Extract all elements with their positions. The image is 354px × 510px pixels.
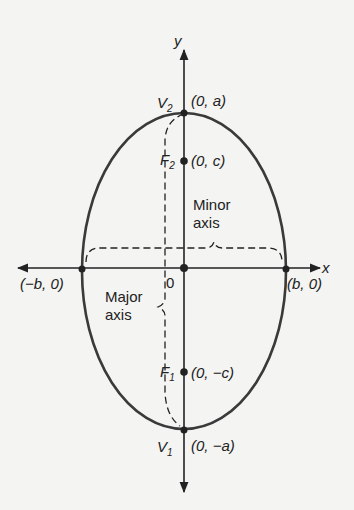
minor-axis-label-2: axis xyxy=(193,214,220,231)
focus-f1-dot xyxy=(180,368,188,376)
v2-coord: (0, a) xyxy=(191,92,226,109)
left-vertex-dot xyxy=(79,266,86,273)
y-axis-label: y xyxy=(173,32,183,49)
f2-label: F2 xyxy=(160,151,175,171)
vertex-v2-dot xyxy=(181,110,188,117)
right-vertex-coord: (b, 0) xyxy=(287,275,322,292)
x-axis-label: x xyxy=(321,259,330,276)
f2-coord: (0, c) xyxy=(191,152,225,169)
major-axis-label-2: axis xyxy=(105,306,132,323)
major-axis-label-1: Major xyxy=(105,288,143,305)
v1-coord: (0, −a) xyxy=(191,437,235,454)
vertex-v1-dot xyxy=(181,427,188,434)
v1-label: V1 xyxy=(157,438,173,458)
minor-axis-label-1: Minor xyxy=(193,196,231,213)
focus-f2-dot xyxy=(180,157,188,165)
ellipse-diagram: y x 0 V2 (0, a) F2 (0, c) Minor axis (−b… xyxy=(0,0,354,510)
f1-coord: (0, −c) xyxy=(191,364,234,381)
origin-dot xyxy=(180,264,188,272)
right-vertex-dot xyxy=(283,266,290,273)
v2-label: V2 xyxy=(157,94,173,114)
left-vertex-coord: (−b, 0) xyxy=(20,275,64,292)
f1-label: F1 xyxy=(160,363,175,383)
origin-label: 0 xyxy=(166,274,174,291)
